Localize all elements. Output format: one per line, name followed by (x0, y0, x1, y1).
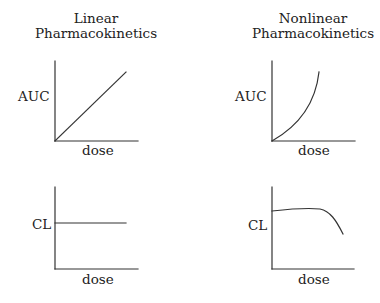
linear-auc-plot (55, 61, 138, 141)
nonlinear-cl-plot (272, 187, 354, 269)
linear-cl-plot (55, 187, 138, 269)
nonlinear-cl-curve (272, 209, 343, 234)
pharmacokinetics-plots (0, 0, 380, 303)
nonlinear-auc-plot (272, 61, 355, 141)
linear-auc-line (55, 72, 126, 141)
nonlinear-auc-curve (272, 72, 319, 141)
